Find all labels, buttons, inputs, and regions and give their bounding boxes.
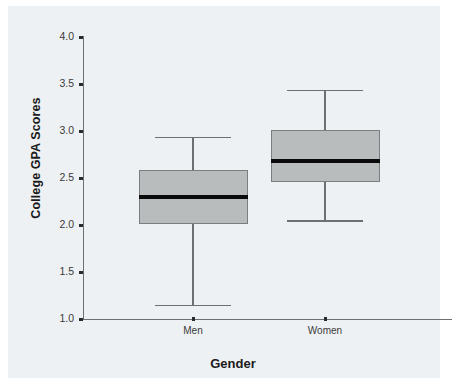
median-line-men <box>139 195 248 199</box>
whisker-stem-lower-women <box>324 182 325 221</box>
y-axis-line <box>83 36 84 320</box>
y-tick-label: 2.5 <box>42 171 74 183</box>
box-women <box>271 130 380 182</box>
y-tick-mark <box>79 224 83 227</box>
chart-panel: College GPA Scores Gender 4.03.53.02.52.… <box>8 6 440 378</box>
whisker-stem-upper-women <box>324 90 325 130</box>
whisker-cap-upper-men <box>155 137 231 138</box>
y-tick-mark <box>79 83 83 86</box>
y-tick-mark <box>79 177 83 180</box>
whisker-cap-lower-women <box>287 220 363 221</box>
y-tick-mark <box>79 36 83 39</box>
x-tick-mark <box>192 317 195 321</box>
y-tick-mark <box>79 130 83 133</box>
median-line-women <box>271 159 380 163</box>
whisker-cap-lower-men <box>155 305 231 306</box>
x-tick-label-men: Men <box>148 325 238 336</box>
y-tick-mark <box>79 318 83 321</box>
boxplot-figure: College GPA Scores Gender 4.03.53.02.52.… <box>0 0 455 391</box>
y-tick-label: 2.0 <box>42 218 74 230</box>
whisker-stem-upper-men <box>192 137 193 171</box>
y-axis-title: College GPA Scores <box>29 68 43 248</box>
y-tick-mark <box>79 271 83 274</box>
whisker-stem-lower-men <box>192 224 193 305</box>
x-tick-label-women: Women <box>280 325 370 336</box>
x-axis-title: Gender <box>68 356 398 371</box>
x-axis-line <box>83 319 452 320</box>
y-tick-label: 3.5 <box>42 77 74 89</box>
x-tick-mark <box>324 317 327 321</box>
whisker-cap-upper-women <box>287 90 363 91</box>
y-tick-label: 1.5 <box>42 265 74 277</box>
y-tick-label: 1.0 <box>42 312 74 324</box>
y-tick-label: 4.0 <box>42 30 74 42</box>
y-tick-label: 3.0 <box>42 124 74 136</box>
